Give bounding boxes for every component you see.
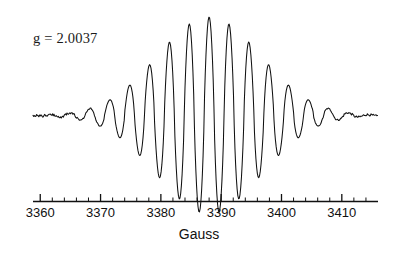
x-axis-tick-label: 3360 [26,205,55,220]
x-axis-tick-label: 3390 [207,205,236,220]
x-axis-ticks [40,194,366,202]
x-axis-tick-label: 3410 [327,205,356,220]
x-axis-tick-label: 3380 [146,205,175,220]
x-axis-title: Gauss [179,226,219,242]
x-axis-group [33,194,378,202]
epr-spectrum-figure: g = 2.0037 336033703380339034003410 Gaus… [0,0,398,255]
g-value-annotation: g = 2.0037 [33,30,98,47]
x-axis-tick-label: 3400 [267,205,296,220]
x-axis-tick-label: 3370 [86,205,115,220]
